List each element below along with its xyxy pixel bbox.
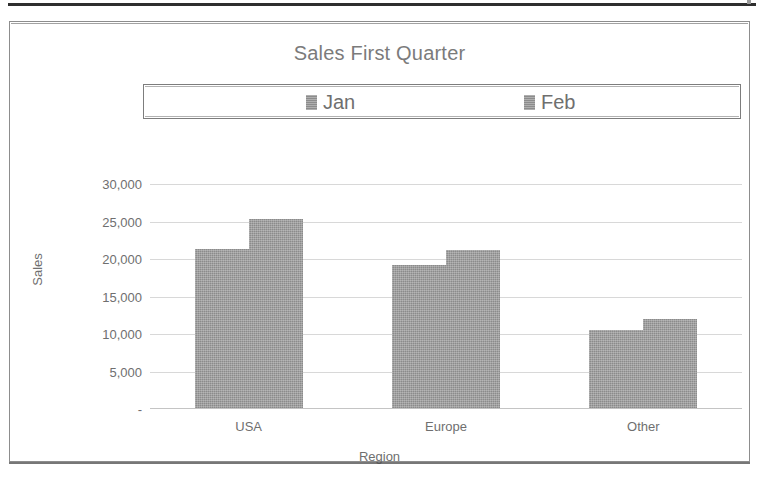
y-axis-tick-label: - xyxy=(70,403,142,416)
y-axis-tick-label: 30,000 xyxy=(70,178,142,191)
y-axis-title: Sales xyxy=(30,235,45,305)
bar-feb-usa[interactable] xyxy=(249,219,303,409)
y-axis-tick-label: 5,000 xyxy=(70,366,142,379)
page-top-rule xyxy=(8,3,756,6)
x-axis-title: Region xyxy=(10,449,749,464)
y-axis-tick-label: 25,000 xyxy=(70,216,142,229)
x-axis-label-other: Other xyxy=(573,419,713,434)
legend-label-jan: Jan xyxy=(323,88,355,116)
x-axis-line xyxy=(150,408,742,409)
y-axis-tick-label: 10,000 xyxy=(70,328,142,341)
bar-feb-other[interactable] xyxy=(643,319,697,409)
chart-legend[interactable]: Jan Feb xyxy=(143,84,741,119)
bar-jan-other[interactable] xyxy=(589,330,643,410)
y-axis-tick-label: 15,000 xyxy=(70,291,142,304)
bar-jan-usa[interactable] xyxy=(195,249,249,410)
legend-entry-feb[interactable]: Feb xyxy=(524,88,575,116)
plot-area xyxy=(150,184,742,409)
legend-swatch-icon-feb xyxy=(524,95,535,110)
y-axis-tick-labels: -5,00010,00015,00020,00025,00030,000 xyxy=(68,184,142,409)
legend-entry-jan[interactable]: Jan xyxy=(306,88,355,116)
legend-swatch-icon-jan xyxy=(306,95,317,110)
bar-feb-europe[interactable] xyxy=(446,250,500,409)
chart-frame: Sales First Quarter Jan Feb Sales -5,000… xyxy=(9,21,750,462)
y-axis-tick-label: 20,000 xyxy=(70,253,142,266)
x-axis-label-usa: USA xyxy=(179,419,319,434)
page-corner-mark xyxy=(747,0,751,4)
gridline xyxy=(150,222,742,223)
bar-jan-europe[interactable] xyxy=(392,265,446,409)
chart-title: Sales First Quarter xyxy=(10,42,749,65)
gridline xyxy=(150,184,742,185)
legend-label-feb: Feb xyxy=(541,88,575,116)
x-axis-label-europe: Europe xyxy=(376,419,516,434)
